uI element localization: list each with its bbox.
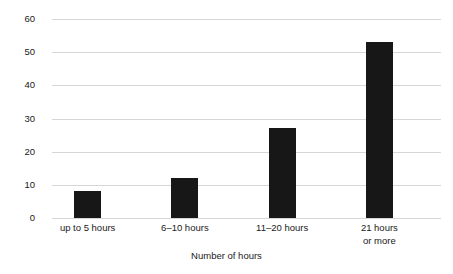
y-axis-tick-label: 50 [0,47,35,57]
bar [171,178,198,218]
bar [269,128,296,218]
bar-chart-figure: Percentage of students 6050403020100 Num… [0,0,453,274]
y-axis-tick-label: 60 [0,14,35,24]
x-axis-title: Number of hours [0,250,453,262]
y-axis-tick-label: 20 [0,147,35,157]
plot-area: 6050403020100 [52,19,441,218]
bar [74,191,101,218]
y-axis-tick-label: 10 [0,180,35,190]
x-axis-tick-label-line2: or more [319,235,439,248]
gridline [52,218,441,219]
y-axis-tick-label: 40 [0,80,35,90]
x-axis-tick-label-line1: 6–10 hours [161,222,209,233]
x-axis-tick-label-line1: up to 5 hours [60,222,115,233]
x-axis-tick-label-line1: 11–20 hours [256,222,308,233]
x-axis-tick-label-line1: 21 hours [361,222,398,233]
gridline [52,19,441,20]
bar [366,42,393,218]
x-axis-tick-label: 21 hoursor more [319,222,439,247]
y-axis-tick-label: 30 [0,114,35,124]
